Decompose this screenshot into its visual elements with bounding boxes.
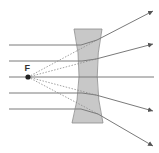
focal-point-label: F — [25, 63, 31, 73]
focal-point — [25, 74, 30, 79]
refracted-ray-1 — [97, 11, 153, 40]
refracted-ray-5 — [98, 114, 153, 146]
refracted-ray-2 — [96, 44, 153, 59]
refracted-ray-4 — [96, 95, 153, 111]
concave-lens-diagram: F — [0, 0, 159, 153]
